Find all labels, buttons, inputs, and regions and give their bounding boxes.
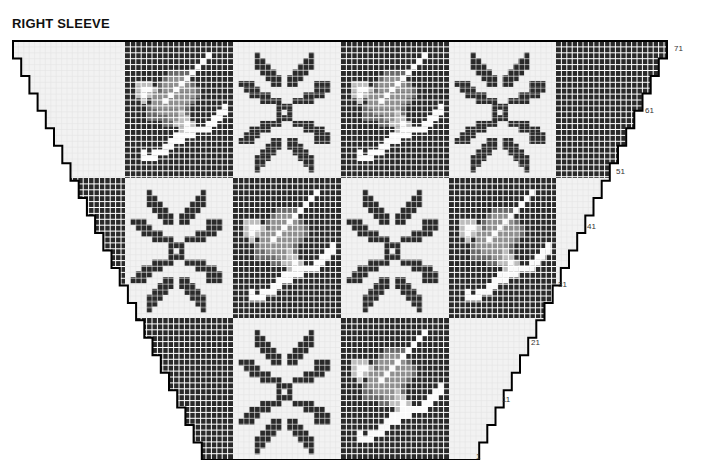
row-number-label: 31: [558, 280, 567, 289]
row-number-label: 51: [616, 167, 625, 176]
sleeve-knitting-chart: [0, 0, 719, 460]
row-number-label: 21: [531, 338, 540, 347]
row-number-label: 11: [502, 395, 510, 404]
row-number-label: 71: [674, 44, 683, 53]
row-number-label: 41: [587, 222, 596, 231]
row-number-label: 61: [645, 106, 654, 115]
row-number-label: 1: [476, 452, 480, 460]
